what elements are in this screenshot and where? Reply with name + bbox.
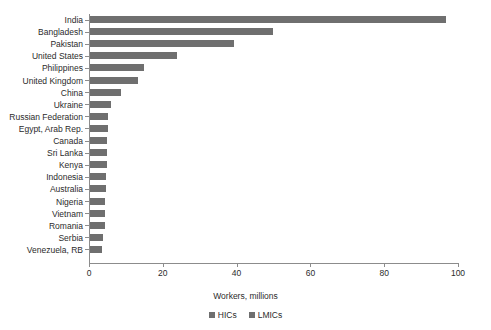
chart-legend: HICsLMICs [0, 310, 491, 321]
y-axis-tick [85, 68, 89, 69]
category-label: Egypt, Arab Rep. [0, 123, 83, 135]
bar-row: Vietnam [0, 208, 491, 220]
x-axis-tick [237, 263, 238, 267]
category-label: Bangladesh [0, 26, 83, 38]
y-axis-tick [85, 128, 89, 129]
bar-row: China [0, 87, 491, 99]
legend-label: HICs [218, 310, 237, 321]
bar-row: Serbia [0, 232, 491, 244]
legend-label: LMICs [258, 310, 283, 321]
bar-row: Russian Federation [0, 111, 491, 123]
x-axis-tick [89, 263, 90, 267]
y-axis-tick [85, 153, 89, 154]
y-axis-tick [85, 177, 89, 178]
x-axis-label: Workers, millions [0, 291, 491, 301]
category-label: Indonesia [0, 171, 83, 183]
category-label: United Kingdom [0, 75, 83, 87]
x-axis-line [89, 263, 458, 264]
x-axis-tick-label: 80 [364, 268, 404, 279]
x-axis-tick [310, 263, 311, 267]
category-label: Serbia [0, 232, 83, 244]
bar-row: Venezuela, RB [0, 244, 491, 256]
bar-row: Nigeria [0, 196, 491, 208]
bar [90, 113, 108, 120]
bar-row: Ukraine [0, 99, 491, 111]
y-axis-tick [85, 80, 89, 81]
x-axis-tick-label: 100 [438, 268, 478, 279]
category-label: Romania [0, 220, 83, 232]
x-axis-tick [163, 263, 164, 267]
x-axis-tick-label: 60 [290, 268, 330, 279]
bar-row: Australia [0, 183, 491, 195]
y-axis-tick [85, 237, 89, 238]
bar-row: Sri Lanka [0, 147, 491, 159]
legend-swatch-icon [249, 312, 255, 318]
category-label: Philippines [0, 62, 83, 74]
y-axis-tick [85, 44, 89, 45]
bar [90, 149, 107, 156]
category-label: Australia [0, 183, 83, 195]
legend-swatch-icon [209, 312, 215, 318]
y-axis-tick [85, 141, 89, 142]
category-label: Venezuela, RB [0, 244, 83, 256]
bar [90, 16, 446, 23]
bar [90, 77, 138, 84]
bar-row: Bangladesh [0, 26, 491, 38]
bar-row: Romania [0, 220, 491, 232]
bar-row: United States [0, 50, 491, 62]
bar [90, 198, 105, 205]
y-axis-tick [85, 201, 89, 202]
y-axis-tick [85, 104, 89, 105]
x-axis-tick-label: 40 [217, 268, 257, 279]
bar [90, 89, 121, 96]
plot-area: IndiaBangladeshPakistanUnited StatesPhil… [0, 0, 491, 265]
category-label: Kenya [0, 159, 83, 171]
y-axis-tick [85, 249, 89, 250]
category-label: China [0, 87, 83, 99]
bar [90, 28, 273, 35]
bar-row: Philippines [0, 62, 491, 74]
x-axis-tick-label: 0 [69, 268, 109, 279]
y-axis-tick [85, 32, 89, 33]
bar [90, 101, 111, 108]
bar [90, 234, 103, 241]
bar [90, 246, 102, 253]
bar-chart: IndiaBangladeshPakistanUnited StatesPhil… [0, 0, 491, 330]
category-label: Pakistan [0, 38, 83, 50]
x-axis-tick-label: 20 [143, 268, 183, 279]
bar-row: Canada [0, 135, 491, 147]
y-axis-tick [85, 92, 89, 93]
bar-row: Kenya [0, 159, 491, 171]
legend-entry[interactable]: LMICs [249, 310, 283, 321]
bar [90, 161, 107, 168]
bar [90, 137, 107, 144]
bar [90, 210, 105, 217]
y-axis-tick [85, 56, 89, 57]
category-label: Sri Lanka [0, 147, 83, 159]
bar [90, 125, 108, 132]
bar-row: Indonesia [0, 171, 491, 183]
bar [90, 52, 177, 59]
bar-row: Egypt, Arab Rep. [0, 123, 491, 135]
category-label: United States [0, 50, 83, 62]
bar-row: United Kingdom [0, 75, 491, 87]
bar-row: India [0, 14, 491, 26]
bar-row: Pakistan [0, 38, 491, 50]
category-label: Ukraine [0, 99, 83, 111]
category-label: Russian Federation [0, 111, 83, 123]
y-axis-tick [85, 225, 89, 226]
y-axis-tick [85, 20, 89, 21]
category-label: India [0, 14, 83, 26]
legend-entry[interactable]: HICs [209, 310, 237, 321]
category-label: Canada [0, 135, 83, 147]
y-axis-tick [85, 116, 89, 117]
bar [90, 40, 234, 47]
x-axis-tick [458, 263, 459, 267]
bar [90, 64, 144, 71]
category-label: Vietnam [0, 208, 83, 220]
y-axis-tick [85, 165, 89, 166]
y-axis-tick [85, 189, 89, 190]
bar [90, 222, 105, 229]
y-axis-tick [85, 213, 89, 214]
bar [90, 173, 106, 180]
